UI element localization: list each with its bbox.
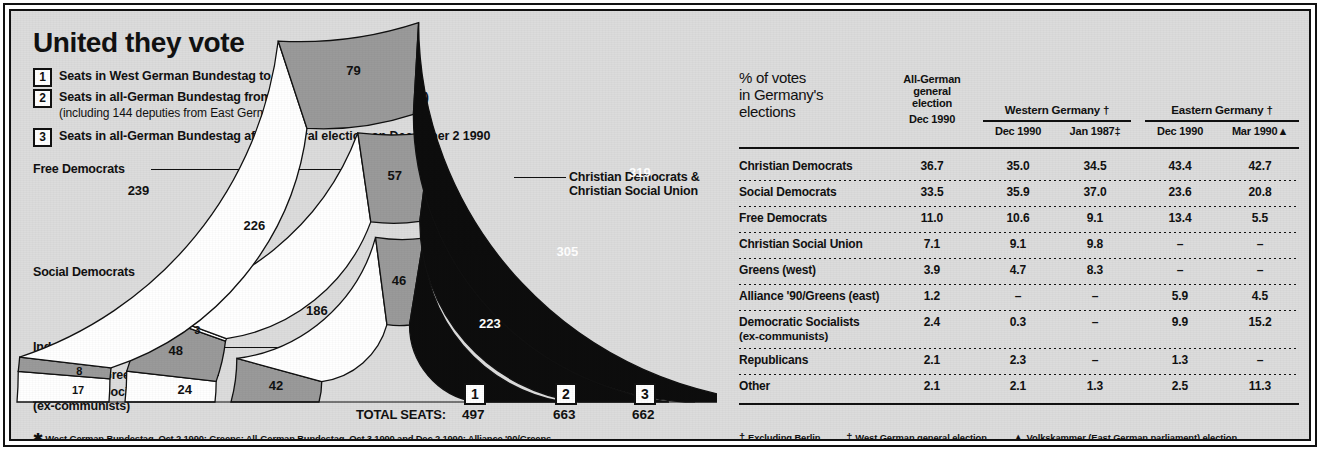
col-header-east-dec1990: Dec 1990: [1145, 125, 1215, 137]
table-cell: –: [1059, 315, 1131, 329]
table-cell: –: [1059, 289, 1131, 303]
table-cell: 9.8: [1059, 237, 1131, 251]
table-corner-line-2: in Germany's: [739, 86, 889, 103]
table-row-name-sub: (ex-communists): [739, 329, 860, 343]
table-cell: 3.9: [889, 263, 975, 277]
col-header-all-german-l3: election: [889, 97, 975, 109]
table-cell: 13.4: [1145, 211, 1215, 225]
group-rule-western: [983, 120, 1131, 122]
col-header-all-german-l1: All-German: [889, 73, 975, 85]
table-cell: –: [1145, 263, 1215, 277]
table-cell: –: [1221, 353, 1299, 367]
table-row-name: Alliance '90/Greens (east): [739, 289, 879, 303]
chart-footnote-text: West German Bundestag, Oct 2 1990: Green…: [45, 433, 551, 441]
pie-segment-value: 305: [556, 244, 578, 259]
chart-panel: United they vote 1Seats in West German B…: [11, 11, 717, 439]
table-cell: 5.5: [1221, 211, 1299, 225]
table-cell: –: [1059, 353, 1131, 367]
table-cell: –: [1221, 237, 1299, 251]
table-footnotes: † Excluding Berlin‡ West German general …: [739, 431, 1237, 441]
table-cell: 8.3: [1059, 263, 1131, 277]
table-cell: 37.0: [1059, 185, 1131, 199]
table-cell: 33.5: [889, 185, 975, 199]
table-row-name: Democratic Socialists(ex-communists): [739, 315, 860, 343]
table-panel: % of votes in Germany's elections All-Ge…: [717, 11, 1311, 439]
pie-segment-value: 186: [306, 303, 328, 318]
footnote-text: Volkskammer (East German parliament) ele…: [1027, 432, 1238, 441]
group-header-eastern: Eastern Germany †: [1145, 104, 1299, 116]
table-row: Greens (west)3.94.78.3––: [739, 259, 1299, 285]
table-corner-label: % of votes in Germany's elections: [739, 69, 889, 120]
table-cell: 2.1: [889, 353, 975, 367]
table-cell: 2.1: [889, 379, 975, 393]
table-row: Other2.12.11.32.511.3: [739, 375, 1299, 401]
chart-footnote: ✱ West German Bundestag, Oct 2 1990: Gre…: [33, 431, 551, 441]
table-row: Social Democrats33.535.937.023.620.8: [739, 181, 1299, 207]
table-row: Republicans2.12.3–1.3–: [739, 349, 1299, 375]
table-row-name: Christian Democrats: [739, 159, 853, 173]
pie-segment-value: 48: [169, 343, 183, 358]
table-row-name: Free Democrats: [739, 211, 827, 225]
table-body: Christian Democrats36.735.034.543.442.7S…: [739, 155, 1299, 401]
pie-segment-value: 42: [269, 378, 283, 393]
ring-badge-3: 3: [634, 383, 656, 405]
pie-segment-value: 223: [479, 316, 501, 331]
table-cell: –: [1221, 263, 1299, 277]
table-cell: 9.9: [1145, 315, 1215, 329]
table-cell: 1.2: [889, 289, 975, 303]
col-header-west-dec1990: Dec 1990: [983, 125, 1053, 137]
pie-segment-value: 46: [392, 273, 406, 288]
table-cell: 35.0: [983, 159, 1053, 173]
table-cell: 20.8: [1221, 185, 1299, 199]
table-cell: 23.6: [1145, 185, 1215, 199]
table-cell: 9.1: [983, 237, 1053, 251]
footnote-marker: ▲: [1013, 431, 1027, 441]
infographic-frame: United they vote 1Seats in West German B…: [3, 3, 1317, 447]
table-cell: 11.0: [889, 211, 975, 225]
table-cell: 5.9: [1145, 289, 1215, 303]
col-header-all-german-l2: general: [889, 85, 975, 97]
ring-badge-1: 1: [464, 383, 486, 405]
table-cell: 4.5: [1221, 289, 1299, 303]
total-seats-value-1: 497: [462, 407, 485, 422]
table-row: Free Democrats11.010.69.113.45.5: [739, 207, 1299, 233]
footnote-text: West German general election: [855, 432, 986, 441]
table-cell: 9.1: [1059, 211, 1131, 225]
footnote-marker: †: [739, 431, 748, 441]
table-cell: 0.3: [983, 315, 1053, 329]
table-cell: 2.5: [1145, 379, 1215, 393]
table-corner-line-3: elections: [739, 103, 889, 120]
table-cell: 10.6: [983, 211, 1053, 225]
table-cell: 7.1: [889, 237, 975, 251]
table-top-rule: [739, 147, 1299, 149]
table-row: Democratic Socialists(ex-communists)2.40…: [739, 311, 1299, 349]
table-cell: 34.5: [1059, 159, 1131, 173]
total-seats-value-3: 662: [632, 407, 655, 422]
pie-segment-value: 319: [629, 165, 651, 180]
table-bottom-rule: [739, 403, 1299, 405]
table-cell: 35.9: [983, 185, 1053, 199]
table-row-name: Greens (west): [739, 263, 816, 277]
pie-segment-value: 226: [243, 218, 265, 233]
table-cell: 2.1: [983, 379, 1053, 393]
table-cell: –: [1145, 237, 1215, 251]
table-row-name: Christian Social Union: [739, 237, 863, 251]
table-cell: 15.2: [1221, 315, 1299, 329]
col-header-all-german: All-German general election Dec 1990: [889, 73, 975, 125]
table-cell: 2.4: [889, 315, 975, 329]
nested-halfdonut-chart: 4218646223244832265730517823979319: [11, 11, 717, 441]
pie-segment-value: 8: [76, 365, 82, 377]
total-seats-label: TOTAL SEATS:: [356, 407, 446, 422]
pie-segment-value: 239: [128, 183, 150, 198]
col-header-west-jan1987: Jan 1987‡: [1059, 125, 1131, 137]
table-row-name: Other: [739, 379, 770, 393]
table-cell: 43.4: [1145, 159, 1215, 173]
table-cell: 4.7: [983, 263, 1053, 277]
pie-segment-value: 3: [194, 324, 200, 336]
table-row-name: Republicans: [739, 353, 808, 367]
table-row-name: Social Democrats: [739, 185, 837, 199]
table-corner-line-1: % of votes: [739, 69, 889, 86]
pie-segment-value: 17: [72, 384, 84, 396]
group-rule-eastern: [1145, 120, 1299, 122]
pie-segment-value: 79: [346, 63, 360, 78]
